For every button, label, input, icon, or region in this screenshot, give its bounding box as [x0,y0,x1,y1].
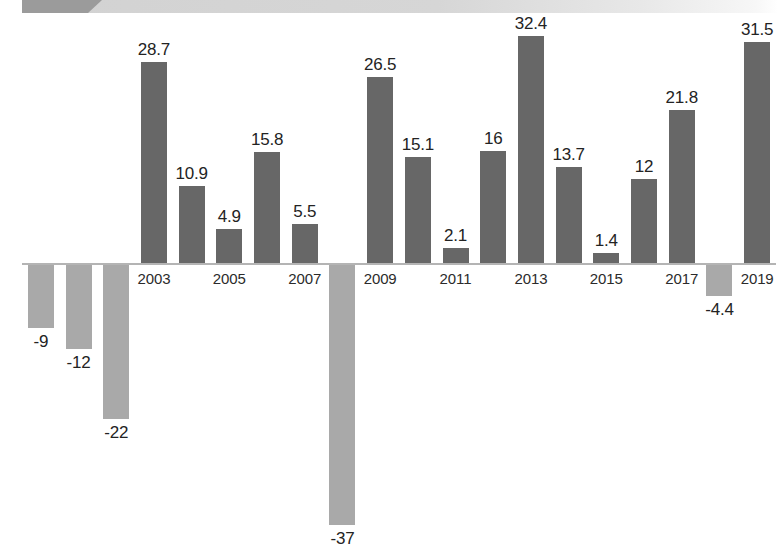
value-label-2012: 16 [463,130,523,147]
year-label-2013: 2013 [501,271,561,286]
value-label-2007: 5.5 [275,203,335,220]
value-label-2009: 26.5 [350,56,410,73]
bar-2009 [367,77,393,263]
value-label-2017: 21.8 [652,89,712,106]
bar-2002 [103,265,129,419]
year-label-2003: 2003 [124,271,184,286]
value-label-2016: 12 [614,158,674,175]
value-label-2005: 4.9 [199,208,259,225]
value-label-2001: -12 [49,354,109,371]
year-label-2009: 2009 [350,271,410,286]
value-label-2015: 1.4 [576,232,636,249]
bar-2005 [216,229,242,263]
value-label-2018: -4.4 [689,301,749,318]
value-label-2004: 10.9 [162,165,222,182]
year-label-2017: 2017 [652,271,712,286]
year-label-2007: 2007 [275,271,335,286]
value-label-2003: 28.7 [124,41,184,58]
value-label-2002: -22 [86,424,146,441]
value-label-2010: 15.1 [388,136,448,153]
value-label-2000: -9 [11,333,71,350]
bar-2008 [329,265,355,525]
bar-2003 [141,62,167,263]
value-label-2011: 2.1 [426,227,486,244]
year-label-2011: 2011 [426,271,486,286]
year-label-2019: 2019 [727,271,778,286]
bar-2012 [480,151,506,263]
value-label-2013: 32.4 [501,15,561,32]
value-label-2006: 15.8 [237,131,297,148]
bar-chart-plot-area: -9-12-2228.710.94.915.85.5-3726.515.12.1… [0,0,778,556]
bar-2011 [443,248,469,263]
bar-2000 [28,265,54,328]
bar-2016 [631,179,657,263]
bar-2015 [593,253,619,263]
value-label-2008: -37 [312,530,372,547]
bar-2004 [179,186,205,263]
bar-2010 [405,157,431,263]
year-label-2015: 2015 [576,271,636,286]
zero-axis-line [22,263,776,265]
value-label-2014: 13.7 [539,146,599,163]
value-label-2019: 31.5 [727,21,778,38]
bar-2019 [744,42,770,263]
chart-root: -9-12-2228.710.94.915.85.5-3726.515.12.1… [0,0,778,556]
bar-2007 [292,224,318,263]
bar-2017 [669,110,695,263]
year-label-2005: 2005 [199,271,259,286]
